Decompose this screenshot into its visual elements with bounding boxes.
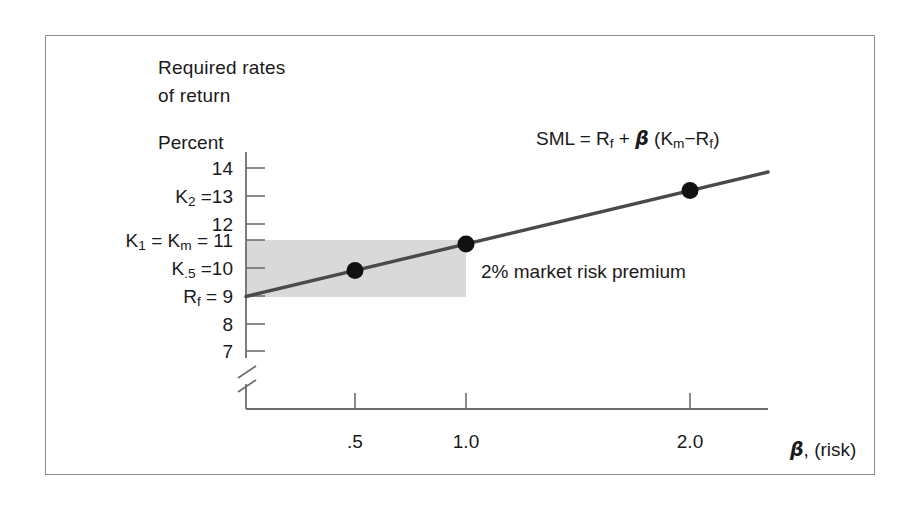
y-tick-label-8: 8 [222,315,233,334]
chart-header-line-2: of return [158,86,231,105]
y-tick-label-10: K.5 =10 [171,259,233,278]
y-axis-unit-label: Percent [158,133,223,152]
x-axis-title: β, (risk) [790,440,856,459]
y-tick-label-9: Rf = 9 [183,287,233,306]
figure-container: Required rates of return Percent 14 K2 =… [0,0,921,506]
risk-premium-annotation: 2% market risk premium [481,262,686,281]
chart-header-line-1: Required rates [158,58,285,77]
sml-equation-annotation: SML = Rf + β (Km−Rf) [536,129,719,148]
y-tick-label-7: 7 [222,342,233,361]
x-tick-label-0-5: .5 [347,432,363,451]
y-tick-label-14: 14 [212,159,233,178]
y-tick-label-11: K1 = Km = 11 [126,231,233,250]
x-tick-label-2-0: 2.0 [677,432,703,451]
x-tick-label-1-0: 1.0 [453,432,479,451]
y-tick-label-13: K2 =13 [175,187,233,206]
